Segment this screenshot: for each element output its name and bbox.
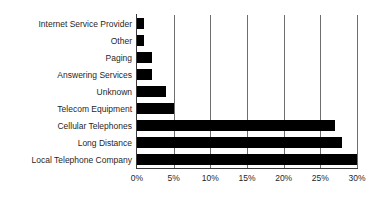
category-label: Cellular Telephones: [57, 121, 132, 131]
bar-row: [137, 100, 357, 117]
bar: [137, 137, 342, 148]
bar: [137, 103, 174, 114]
x-tick-label: 30%: [348, 172, 365, 184]
category-label: Long Distance: [78, 138, 132, 148]
x-tick-label: 0%: [131, 172, 143, 184]
category-label: Local Telephone Company: [32, 155, 133, 165]
bar-row: [137, 49, 357, 66]
category-label: Internet Service Provider: [38, 19, 132, 29]
x-tick-label: 25%: [312, 172, 329, 184]
bar: [137, 120, 335, 131]
bar-row: [137, 117, 357, 134]
category-axis-label-row: Local Telephone Company: [0, 151, 132, 168]
category-axis-label-row: Paging: [0, 49, 132, 66]
category-label: Answering Services: [57, 70, 132, 80]
bar-chart: Internet Service Provider Other Paging A…: [0, 0, 384, 201]
category-axis-label-row: Cellular Telephones: [0, 117, 132, 134]
category-axis-label-row: Other: [0, 32, 132, 49]
category-label: Unknown: [97, 87, 132, 97]
category-axis-label-row: Telecom Equipment: [0, 100, 132, 117]
bar: [137, 35, 144, 46]
category-label: Paging: [106, 53, 132, 63]
category-label: Telecom Equipment: [57, 104, 132, 114]
gridline: [357, 15, 358, 168]
category-label: Other: [111, 36, 132, 46]
category-axis-labels: Internet Service Provider Other Paging A…: [0, 15, 132, 168]
plot-area: [137, 15, 357, 168]
bar-row: [137, 151, 357, 168]
bar-series: [137, 15, 357, 168]
x-axis-tick-labels: 0%5%10%15%20%25%30%: [137, 172, 357, 186]
bar-row: [137, 32, 357, 49]
bar: [137, 86, 166, 97]
x-tick-label: 5%: [168, 172, 180, 184]
bar: [137, 52, 152, 63]
bar-row: [137, 66, 357, 83]
bar-row: [137, 83, 357, 100]
category-axis-label-row: Internet Service Provider: [0, 15, 132, 32]
x-axis-line: [136, 168, 358, 169]
bar: [137, 18, 144, 29]
x-tick-label: 15%: [238, 172, 255, 184]
bar-row: [137, 134, 357, 151]
bar: [137, 69, 152, 80]
x-tick-label: 10%: [202, 172, 219, 184]
bar: [137, 154, 357, 165]
bar-row: [137, 15, 357, 32]
category-axis-label-row: Long Distance: [0, 134, 132, 151]
category-axis-label-row: Answering Services: [0, 66, 132, 83]
category-axis-label-row: Unknown: [0, 83, 132, 100]
x-tick-label: 20%: [275, 172, 292, 184]
